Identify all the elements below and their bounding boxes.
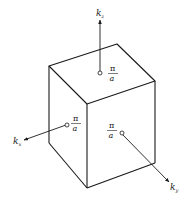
kz-origin-marker [98, 71, 102, 75]
kz-label: kz [96, 8, 104, 19]
svg-text:a: a [109, 131, 114, 140]
ky-origin-marker [120, 131, 124, 135]
svg-text:π: π [73, 114, 78, 123]
svg-text:π: π [109, 121, 114, 130]
cube-diagram: kz π a kx π a ky π a [0, 0, 190, 202]
top-face-label: π a [108, 64, 118, 83]
front-face-label: π a [107, 121, 117, 140]
left-face-label: π a [71, 114, 81, 133]
cube [49, 44, 155, 188]
kx-label: kx [13, 136, 21, 147]
kx-axis: kx π a [13, 114, 81, 147]
cube-bottom-right-edge [87, 163, 155, 188]
ky-label: ky [170, 182, 178, 194]
kx-origin-marker [65, 123, 69, 127]
cube-bottom-left-edge [49, 143, 87, 188]
svg-text:π: π [110, 64, 115, 73]
kz-axis: kz π a [96, 8, 118, 83]
svg-text:a: a [73, 124, 78, 133]
ky-axis: ky π a [107, 121, 178, 194]
svg-text:a: a [110, 74, 115, 83]
